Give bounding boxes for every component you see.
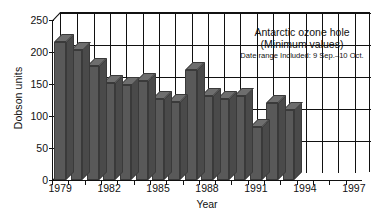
x-axis-tick-label: 1991 bbox=[244, 183, 267, 194]
bar-side-face bbox=[164, 91, 172, 180]
bar-side-face bbox=[180, 94, 188, 180]
y-axis-tick-label: 100 bbox=[14, 111, 48, 122]
x-axis-tick-label: 1988 bbox=[195, 183, 218, 194]
bar-side-face bbox=[148, 73, 156, 180]
bar-side-face bbox=[99, 58, 107, 180]
ozone-bar-chart-figure: Dobson units 050100150200250 Antarctic o… bbox=[0, 0, 378, 221]
bar-side-face bbox=[213, 88, 221, 180]
chart-title: Antarctic ozone hole bbox=[202, 26, 378, 38]
bar-side-face bbox=[115, 75, 123, 180]
x-axis-tick-label: 1994 bbox=[293, 183, 316, 194]
bar-side-face bbox=[262, 119, 270, 180]
bar-side-face bbox=[229, 91, 237, 180]
x-axis-tick-label: 1985 bbox=[146, 183, 169, 194]
chart-subtitle: (Minimum values) bbox=[202, 38, 378, 50]
y-axis-tick-label: 50 bbox=[14, 143, 48, 154]
plot-area: Antarctic ozone hole (Minimum values) Da… bbox=[52, 12, 370, 180]
y-axis-tick-labels: 050100150200250 bbox=[14, 0, 48, 221]
bar-side-face bbox=[66, 34, 74, 180]
y-axis-tick-label: 0 bbox=[14, 175, 48, 186]
x-axis-tick-labels: 1979198219851988199119941997 bbox=[52, 183, 378, 197]
bar-side-face bbox=[245, 88, 253, 180]
y-axis-tick-label: 150 bbox=[14, 79, 48, 90]
bar-front-face bbox=[54, 42, 66, 180]
x-axis-title: Year bbox=[52, 198, 362, 210]
y-axis-tick-label: 200 bbox=[14, 47, 48, 58]
x-axis-tick-label: 1982 bbox=[97, 183, 120, 194]
bar bbox=[54, 42, 66, 180]
bar-side-face bbox=[82, 42, 90, 180]
x-axis-tick-label: 1979 bbox=[48, 183, 71, 194]
chart-annotation: Antarctic ozone hole (Minimum values) Da… bbox=[202, 26, 378, 61]
chart-date-range: Date range Included: 9 Sep.–10 Oct. bbox=[202, 51, 378, 61]
bar-side-face bbox=[131, 77, 139, 180]
bar-side-face bbox=[278, 95, 286, 180]
y-axis-tick-label: 250 bbox=[14, 15, 48, 26]
bar-side-face bbox=[197, 62, 205, 180]
x-axis-tick-label: 1997 bbox=[342, 183, 365, 194]
bar-side-face bbox=[294, 102, 302, 180]
